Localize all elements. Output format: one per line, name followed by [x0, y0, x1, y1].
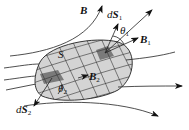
field-line-2: [4, 64, 40, 68]
label-dS1: dS1: [107, 8, 123, 22]
label-theta1: θ1: [120, 24, 129, 38]
field-line-3: [4, 76, 38, 80]
field-line-4: [6, 84, 36, 90]
label-B1: B1: [139, 33, 151, 47]
label-S: S: [58, 48, 64, 60]
surface-S: [35, 40, 132, 100]
label-B: B: [79, 4, 87, 16]
field-line-7: [126, 52, 175, 60]
field-line-6: [24, 102, 158, 116]
flux-diagram: B S dS1 θ1 B1 B2 θ2 dS2: [0, 0, 189, 130]
field-line-5: [118, 86, 182, 87]
